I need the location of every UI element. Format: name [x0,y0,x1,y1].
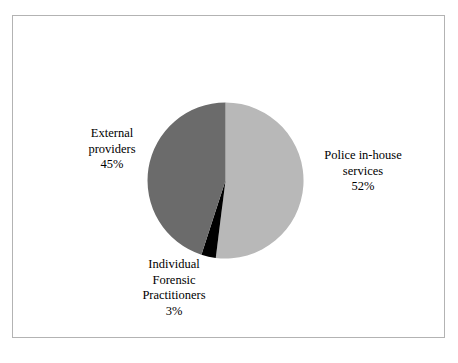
pie-label-external-providers-line2: providers [58,142,166,158]
pie-label-police-in-house-services-line2: services [300,164,426,180]
pie-label-external-providers-value: 45% [58,157,166,173]
pie-label-external-providers-line1: External [58,126,166,142]
pie-label-individual-forensic-practitioners-line1: Individual [110,257,238,273]
pie-label-individual-forensic-practitioners-line3: Practitioners [110,288,238,304]
pie-label-police-in-house-services-line1: Police in-house [300,148,426,164]
pie-graphic [147,102,304,259]
pie-label-individual-forensic-practitioners-value: 3% [110,304,238,320]
pie-label-police-in-house-services-value: 52% [300,179,426,195]
pie-label-individual-forensic-practitioners: Individual Forensic Practitioners 3% [110,257,238,319]
pie-label-police-in-house-services: Police in-house services 52% [300,148,426,195]
pie-label-individual-forensic-practitioners-line2: Forensic [110,273,238,289]
screenshot-root: External providers 45% Police in-house s… [0,0,458,363]
pie-label-external-providers: External providers 45% [58,126,166,173]
pie-chart: External providers 45% Police in-house s… [0,0,458,363]
pie-slice-police-in-house-services [216,102,304,258]
